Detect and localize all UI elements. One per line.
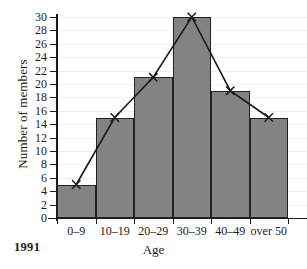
- bar: [250, 118, 289, 219]
- y-tick: [50, 44, 57, 45]
- y-tick: [50, 124, 57, 125]
- y-tick-label: 28: [23, 24, 47, 36]
- bar: [211, 91, 250, 218]
- y-tick: [50, 97, 57, 98]
- y-tick: [50, 57, 57, 58]
- histogram-figure: Number of members 0246810121416182022242…: [0, 0, 307, 269]
- y-tick-label: 4: [23, 185, 47, 197]
- y-tick: [50, 178, 57, 179]
- y-tick-label: 2: [23, 199, 47, 211]
- y-tick-label: 22: [23, 65, 47, 77]
- year-annotation: 1991: [14, 240, 40, 255]
- bar: [134, 77, 173, 218]
- y-tick: [50, 71, 57, 72]
- y-tick-label: 12: [23, 132, 47, 144]
- x-axis-title: Age: [0, 242, 307, 258]
- y-tick-label: 16: [23, 105, 47, 117]
- y-tick: [50, 17, 57, 18]
- y-tick-label: 30: [23, 11, 47, 23]
- y-tick: [50, 30, 57, 31]
- bar: [96, 118, 135, 219]
- y-tick-label: 18: [23, 91, 47, 103]
- y-tick: [50, 138, 57, 139]
- y-tick: [50, 151, 57, 152]
- bar: [173, 17, 212, 218]
- bar: [57, 185, 96, 219]
- y-tick: [50, 111, 57, 112]
- y-tick-label: 26: [23, 38, 47, 50]
- y-tick-label: 6: [23, 172, 47, 184]
- y-tick-label: 10: [23, 145, 47, 157]
- y-tick-label: 14: [23, 118, 47, 130]
- y-tick: [50, 191, 57, 192]
- y-tick: [50, 164, 57, 165]
- y-tick: [50, 218, 57, 219]
- y-tick: [50, 205, 57, 206]
- y-tick-label: 24: [23, 51, 47, 63]
- x-tick-label: over 50: [244, 224, 295, 238]
- y-tick-label: 20: [23, 78, 47, 90]
- bar-series: [57, 17, 288, 218]
- y-tick-label: 8: [23, 158, 47, 170]
- y-tick: [50, 84, 57, 85]
- y-tick-label: 0: [23, 212, 47, 224]
